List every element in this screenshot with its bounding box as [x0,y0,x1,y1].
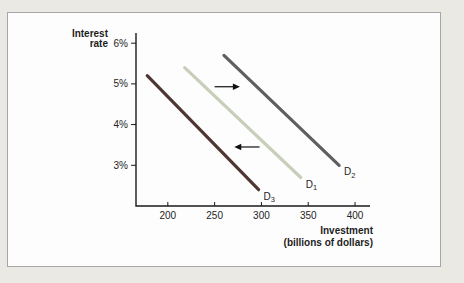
shift-arrow-head-left [234,144,241,150]
y-tick-label: 6% [114,38,129,49]
x-tick-label: 250 [206,210,223,221]
axes-line [136,33,370,206]
x-tick-label: 400 [347,210,364,221]
chart-canvas: 2002503003504003%4%5%6%D3D1D2 [0,0,464,283]
y-tick-label: 4% [114,119,129,130]
shift-arrow-head-right [233,84,240,90]
curve-label-d1: D1 [306,179,317,193]
x-tick-label: 200 [159,210,176,221]
x-tick-label: 350 [300,210,317,221]
x-tick-label: 300 [253,210,270,221]
curve-label-d3: D3 [264,191,275,205]
curve-label-d2: D2 [344,166,355,180]
demand-curve-d1 [185,68,301,178]
y-tick-label: 3% [114,160,129,171]
y-tick-label: 5% [114,78,129,89]
figure-background: Interest rate Investment (billions of do… [0,0,464,283]
demand-curve-d3 [147,76,258,190]
